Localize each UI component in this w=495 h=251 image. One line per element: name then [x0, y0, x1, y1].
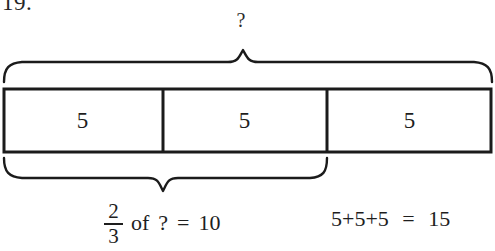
part-brace-icon	[4, 158, 327, 191]
worksheet-page: 19. ? 5 5 5 2 3 of ? = 10 5+5+5 = 15	[0, 0, 495, 251]
fraction-numerator: 2	[105, 201, 122, 222]
sum-addition: 5+5+5	[331, 206, 389, 231]
fraction-equals-sign: =	[177, 212, 189, 234]
sum-equals-sign: =	[402, 206, 414, 231]
fraction-equation: 2 3 of ? = 10	[104, 200, 230, 246]
bar-segment-value-1: 5	[3, 105, 162, 137]
bar-segment-value-2: 5	[163, 105, 326, 137]
sum-equation: 5+5+5 = 15	[331, 206, 450, 232]
sum-total: 15	[428, 206, 450, 231]
fraction-result: 10	[199, 212, 221, 234]
whole-brace-icon	[4, 50, 492, 82]
fraction-of-word: of	[131, 212, 149, 234]
fraction-two-thirds: 2 3	[104, 201, 123, 247]
bar-segment-value-3: 5	[327, 105, 492, 137]
fraction-unknown: ?	[158, 212, 168, 234]
fraction-denominator: 3	[105, 226, 122, 247]
